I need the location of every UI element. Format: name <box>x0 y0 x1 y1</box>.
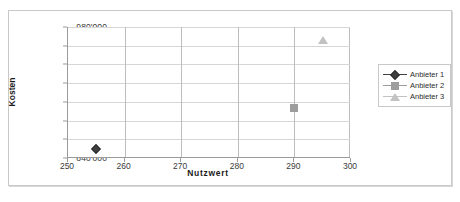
legend-item[interactable]: Anbieter 1 <box>382 69 447 80</box>
legend-item-label: Anbieter 2 <box>408 81 444 90</box>
x-axis-tick-mark <box>237 158 238 162</box>
data-point-series-3 <box>318 36 328 44</box>
legend-marker-icon <box>382 69 408 80</box>
gridline-vertical <box>294 27 295 157</box>
gridline-horizontal <box>68 27 350 28</box>
x-axis-tick-label: 270 <box>173 161 187 171</box>
gridline-vertical <box>125 27 126 157</box>
x-axis-tick-mark <box>350 158 351 162</box>
x-axis-tick-label: 260 <box>117 161 131 171</box>
legend-item-label: Anbieter 3 <box>408 92 444 101</box>
data-point-series-2 <box>290 104 298 112</box>
x-axis-tick-label: 290 <box>286 161 300 171</box>
chart-container: Kosten Nutzwert 840'000860'000880'000900… <box>0 0 460 202</box>
gridline-vertical <box>181 27 182 157</box>
x-axis-tick-label: 280 <box>230 161 244 171</box>
x-axis-tick-label: 250 <box>60 161 74 171</box>
legend-marker-icon <box>382 80 408 91</box>
x-axis-tick-mark <box>67 158 68 162</box>
gridline-horizontal <box>68 46 350 47</box>
gridline-vertical <box>238 27 239 157</box>
x-axis-tick-mark <box>293 158 294 162</box>
legend-item[interactable]: Anbieter 2 <box>382 80 447 91</box>
gridline-horizontal <box>68 102 350 103</box>
y-axis-title: Kosten <box>7 78 17 107</box>
x-axis-tick-mark <box>124 158 125 162</box>
plot-area <box>67 27 350 158</box>
x-axis-title: Nutzwert <box>187 168 229 178</box>
x-axis-tick-mark <box>180 158 181 162</box>
legend: Anbieter 1Anbieter 2Anbieter 3 <box>378 64 451 107</box>
gridline-horizontal <box>68 121 350 122</box>
legend-marker-icon <box>382 91 408 102</box>
legend-item[interactable]: Anbieter 3 <box>382 91 447 102</box>
gridline-horizontal <box>68 139 350 140</box>
x-axis-tick-label: 300 <box>343 161 357 171</box>
legend-item-label: Anbieter 1 <box>408 70 444 79</box>
gridline-horizontal <box>68 64 350 65</box>
gridline-horizontal <box>68 83 350 84</box>
data-point-series-1 <box>91 144 101 154</box>
